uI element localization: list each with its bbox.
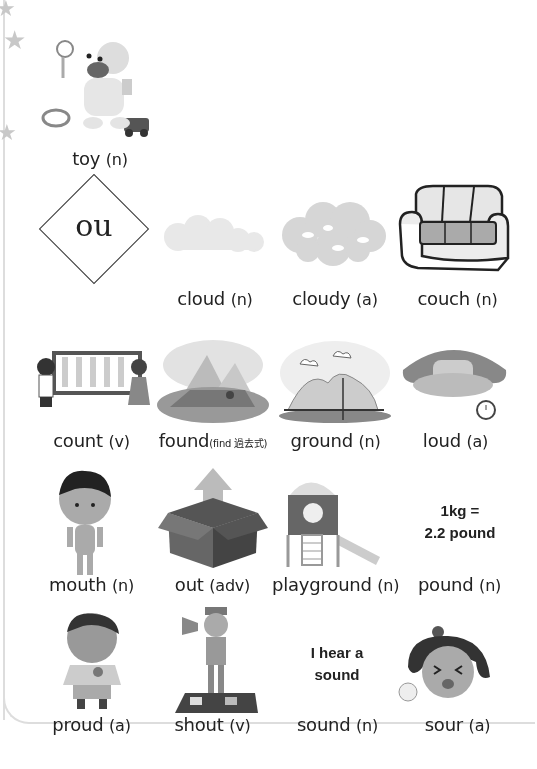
word-text: found	[159, 430, 210, 451]
part-of-speech: (n)	[231, 290, 253, 309]
star-icon: ★	[0, 122, 17, 144]
part-of-speech: (a)	[356, 290, 378, 309]
part-of-speech: (n)	[479, 576, 501, 595]
cloud-illustration	[158, 212, 268, 262]
loud-alarm-illustration	[398, 335, 513, 425]
word-text: shout	[174, 714, 223, 735]
sound-line-1: I hear a	[282, 642, 392, 664]
word-text: ground	[290, 430, 353, 451]
proud-boy-illustration	[55, 610, 130, 710]
cloudy-illustration	[278, 200, 390, 270]
word-text: loud	[423, 430, 461, 451]
pound-line-2: 2.2 pound	[405, 522, 515, 544]
part-of-speech: (n)	[356, 716, 378, 735]
star-icon: ★	[0, 0, 16, 20]
word-text: cloudy	[292, 288, 350, 309]
part-of-speech: (adv)	[209, 576, 250, 595]
word-label-ground: ground (n)	[278, 430, 393, 451]
sour-girl-illustration	[398, 622, 498, 707]
word-label-count: count (v)	[34, 430, 149, 451]
star-icon: ★	[3, 27, 26, 53]
word-text: toy	[72, 148, 100, 169]
word-text: count	[53, 430, 103, 451]
word-label-shout: shout (v)	[155, 714, 270, 735]
word-label-cloudy: cloudy (a)	[280, 288, 390, 309]
word-label-sour: sour (a)	[400, 714, 515, 735]
phonics-letters: ou	[42, 208, 146, 243]
part-of-speech: (a)	[469, 716, 491, 735]
word-text: pound	[418, 574, 474, 595]
word-text: out	[175, 574, 204, 595]
couch-illustration	[398, 182, 513, 272]
baby-toys-illustration	[38, 38, 158, 148]
word-text: sound	[297, 714, 351, 735]
part-of-speech: (n)	[359, 432, 381, 451]
pyramids-illustration	[155, 335, 270, 425]
word-label-found: found(find 過去式)	[152, 430, 274, 451]
sound-line-2: sound	[282, 664, 392, 686]
word-label-playground: playground (n)	[272, 574, 397, 595]
part-of-speech: (v)	[229, 716, 250, 735]
part-of-speech: (a)	[466, 432, 488, 451]
word-text: sour	[425, 714, 463, 735]
word-text: couch	[417, 288, 470, 309]
page-border-left	[3, 0, 5, 720]
word-text: proud	[52, 714, 103, 735]
part-of-speech: (v)	[108, 432, 129, 451]
part-of-speech: (n)	[377, 576, 399, 595]
ground-hills-illustration	[278, 338, 393, 423]
part-of-speech: (n)	[476, 290, 498, 309]
word-label-loud: loud (a)	[398, 430, 513, 451]
word-label-pound: pound (n)	[402, 574, 517, 595]
word-label-mouth: mouth (n)	[34, 574, 149, 595]
shouting-boy-illustration	[170, 605, 260, 715]
word-text: cloud	[177, 288, 225, 309]
playground-illustration	[280, 475, 385, 570]
word-label-toy: toy (n)	[60, 148, 140, 169]
pound-image-text: 1kg = 2.2 pound	[405, 500, 515, 544]
boy-illustration	[55, 467, 115, 577]
part-of-speech: (n)	[106, 150, 128, 169]
word-label-cloud: cloud (n)	[160, 288, 270, 309]
part-of-speech: (a)	[109, 716, 131, 735]
sound-image-text: I hear a sound	[282, 642, 392, 686]
part-of-speech: (n)	[112, 576, 134, 595]
word-label-couch: couch (n)	[400, 288, 515, 309]
word-text: mouth	[49, 574, 106, 595]
word-label-proud: proud (a)	[34, 714, 149, 735]
counting-abacus-illustration	[34, 345, 149, 415]
pound-line-1: 1kg =	[405, 500, 515, 522]
word-label-sound: sound (n)	[280, 714, 395, 735]
box-arrow-illustration	[158, 468, 268, 573]
part-of-speech: (find 過去式)	[209, 438, 267, 449]
word-text: playground	[272, 574, 372, 595]
word-label-out: out (adv)	[155, 574, 270, 595]
